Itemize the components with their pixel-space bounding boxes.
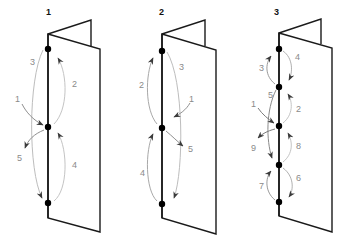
arrow-step-6	[283, 168, 292, 197]
panel-1-title: 1	[46, 7, 51, 17]
panel-1: 1 1 2 3 4 5	[15, 7, 100, 232]
fold-dot-top	[45, 46, 51, 52]
step-label-6: 6	[296, 173, 301, 183]
panel-2-title: 2	[159, 7, 164, 17]
arrow-step-2	[147, 58, 157, 124]
arrow-step-2	[54, 58, 65, 124]
fold-dot-bottom	[45, 200, 51, 206]
fold-dot-5	[276, 199, 282, 205]
back-leaf	[162, 20, 205, 46]
step-label-5: 5	[268, 90, 273, 100]
arrow-step-9	[258, 129, 275, 138]
arrow-step-7	[267, 171, 275, 200]
step-label-4: 4	[140, 168, 145, 178]
panel-3: 3 1 2 3 4 5 6 7 8 9	[251, 7, 332, 232]
step-label-2: 2	[72, 79, 77, 89]
arrow-step-3	[267, 56, 275, 84]
fold-dot-2	[276, 84, 282, 90]
arrow-step-4	[147, 134, 157, 201]
step-label-3: 3	[179, 62, 184, 72]
step-label-1: 1	[251, 99, 256, 109]
step-label-9: 9	[251, 143, 256, 153]
step-label-2: 2	[296, 104, 301, 114]
panel-2: 2 1 2 3 4 5	[139, 7, 216, 234]
step-label-3: 3	[30, 57, 35, 67]
step-label-5: 5	[188, 144, 193, 154]
arrow-step-8	[283, 133, 291, 162]
front-leaf	[48, 34, 100, 232]
fold-dot-bottom	[159, 201, 165, 207]
arrow-step-3	[167, 52, 181, 198]
fold-dot-middle	[159, 125, 165, 131]
step-label-3: 3	[259, 63, 264, 73]
arrow-step-1	[258, 108, 274, 123]
step-label-1: 1	[15, 94, 20, 104]
front-leaf	[279, 33, 332, 232]
step-label-8: 8	[296, 141, 301, 151]
folding-diagram: 1 1 2 3 4 5 2 1 2 3 4 5	[0, 0, 341, 248]
arrow-step-1	[174, 103, 190, 117]
fold-dot-3	[276, 123, 282, 129]
fold-dot-middle	[45, 124, 51, 130]
arrow-step-5	[268, 90, 276, 158]
step-label-7: 7	[259, 181, 264, 191]
step-label-5: 5	[17, 153, 22, 163]
step-label-1: 1	[189, 94, 194, 104]
fold-dot-1	[276, 46, 282, 52]
back-leaf	[48, 20, 91, 46]
arrow-step-2	[283, 94, 291, 123]
step-label-4: 4	[72, 160, 77, 170]
step-label-2: 2	[139, 80, 144, 90]
arrow-step-5	[25, 130, 44, 148]
step-label-4: 4	[295, 52, 300, 62]
fold-dot-4	[276, 162, 282, 168]
panel-3-title: 3	[274, 7, 279, 17]
fold-dot-top	[159, 48, 165, 54]
back-leaf	[279, 19, 321, 44]
arrow-step-4	[54, 133, 65, 201]
arrow-step-4	[283, 51, 291, 80]
